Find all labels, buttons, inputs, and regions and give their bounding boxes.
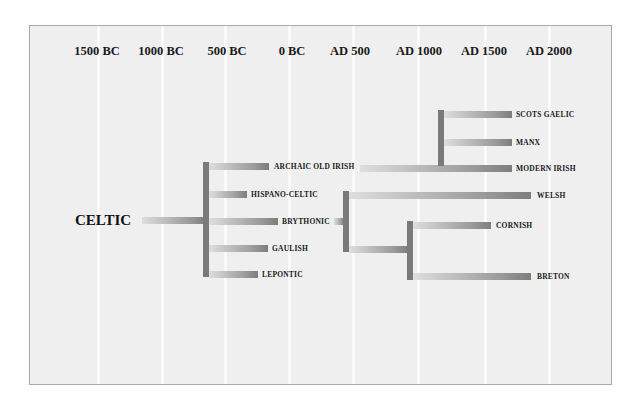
- label-cornish: CORNISH: [496, 221, 532, 230]
- branch-breton: [413, 273, 531, 280]
- label-breton: BRETON: [537, 272, 570, 281]
- branch-lepontic: [209, 271, 258, 278]
- branch-southwestern-brythonic: [349, 246, 409, 253]
- era-label-ad1500: AD 1500: [461, 44, 507, 59]
- label-manx: MANX: [516, 138, 540, 147]
- label-hispano-celtic: HISPANO-CELTIC: [251, 190, 318, 199]
- label-gaulish: GAULISH: [272, 244, 308, 253]
- gridline-ad500: [352, 26, 355, 384]
- era-label-500bc: 500 BC: [207, 44, 246, 59]
- branch-gaulish: [209, 245, 268, 252]
- era-label-ad500: AD 500: [330, 44, 370, 59]
- era-label-0bc: 0 BC: [279, 44, 306, 59]
- era-label-ad1000: AD 1000: [396, 44, 442, 59]
- label-brythonic: BRYTHONIC: [282, 217, 330, 226]
- label-archaic-old-irish: ARCHAIC OLD IRISH: [274, 162, 355, 171]
- branch-modern-irish: [360, 165, 512, 172]
- gridline-ad1000: [417, 26, 420, 384]
- label-lepontic: LEPONTIC: [262, 270, 303, 279]
- diagram-frame: [29, 25, 612, 385]
- branch-celtic: [142, 217, 206, 224]
- era-label-1000bc: 1000 BC: [138, 44, 184, 59]
- branch-welsh: [349, 192, 531, 199]
- gridline-ad1500: [484, 26, 487, 384]
- branch-cornish: [413, 222, 491, 229]
- gridline-0bc: [288, 26, 291, 384]
- branch-manx: [444, 139, 512, 146]
- gridline-ad2000: [548, 26, 551, 384]
- gridline-1500bc: [97, 26, 100, 384]
- label-welsh: WELSH: [537, 191, 566, 200]
- gridline-1000bc: [161, 26, 164, 384]
- branch-hispano-celtic: [209, 191, 247, 198]
- era-label-ad2000: AD 2000: [526, 44, 572, 59]
- era-label-1500bc: 1500 BC: [74, 44, 120, 59]
- root-label-celtic: CELTIC: [75, 212, 131, 228]
- label-scots-gaelic: SCOTS GAELIC: [516, 110, 574, 119]
- label-modern-irish: MODERN IRISH: [516, 164, 576, 173]
- trunk-southwestern-split: [407, 221, 413, 280]
- trunk-goidelic-split: [438, 110, 444, 166]
- trunk-brythonic-split: [343, 191, 349, 252]
- branch-scots-gaelic: [444, 111, 512, 118]
- branch-archaic-old-irish: [209, 163, 269, 170]
- branch-brythonic: [209, 218, 278, 225]
- gridline-500bc: [224, 26, 227, 384]
